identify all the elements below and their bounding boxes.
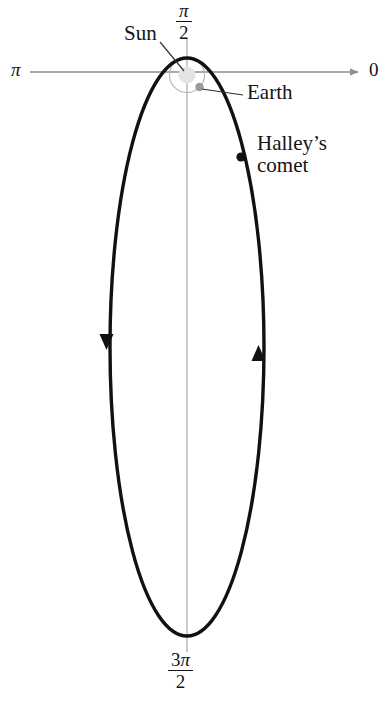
angle-label-three-half-pi-symbol: π [181, 649, 191, 670]
halleys-comet-marker [236, 152, 245, 161]
angle-label-half-pi-denominator: 2 [176, 22, 192, 42]
earth-label: Earth [247, 81, 292, 103]
orbit-diagram [0, 0, 391, 709]
figure-canvas: Sun Earth Halley’s comet π 0 π 2 3π 2 [0, 0, 391, 709]
angle-label-three-half-pi-coefficient: 3 [171, 649, 181, 670]
angle-label-half-pi-numerator: π [176, 1, 192, 21]
angle-label-three-half-pi-denominator: 2 [168, 671, 193, 691]
angle-label-zero: 0 [369, 60, 379, 80]
angle-label-half-pi: π 2 [176, 1, 192, 42]
angle-label-pi: π [11, 60, 21, 80]
angle-label-three-half-pi-numerator: 3π [168, 650, 193, 670]
sun-body [179, 67, 196, 84]
sun-label: Sun [124, 22, 157, 44]
halleys-comet-label-line1: Halley’s [257, 131, 327, 155]
angle-label-three-half-pi: 3π 2 [168, 650, 193, 691]
halleys-comet-label-line2: comet [257, 154, 327, 176]
halleys-comet-label: Halley’s comet [257, 132, 327, 176]
earth-body [195, 83, 203, 91]
